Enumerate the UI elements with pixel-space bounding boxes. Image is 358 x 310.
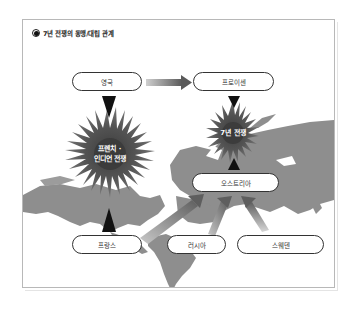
node-britain: 영국 — [72, 72, 142, 91]
prussia-down-arrow — [228, 96, 240, 108]
french-indian-war-label-line2: 인디언 전쟁 — [78, 154, 142, 164]
north-america — [23, 184, 165, 232]
node-prussia: 프로이센 — [193, 72, 274, 91]
node-russia: 러시아 — [167, 235, 226, 254]
node-sweden: 스웨덴 — [237, 235, 324, 254]
node-france: 프랑스 — [72, 235, 142, 254]
britain-prussia-alliance-arrow — [146, 75, 192, 90]
node-austria: 오스트리아 — [192, 173, 279, 192]
french-indian-war-label: 프렌치 · 인디언 전쟁 — [78, 144, 142, 164]
seven-years-war-label: 7년 전쟁 — [208, 128, 258, 138]
world-map — [0, 0, 358, 310]
land-masses — [23, 114, 334, 292]
french-indian-war-label-line1: 프렌치 · — [78, 144, 142, 154]
